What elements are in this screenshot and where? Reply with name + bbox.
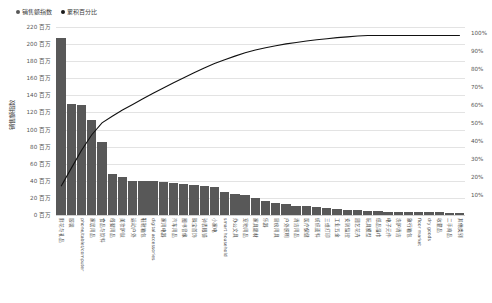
x-axis-category-label: 食品与饮料 <box>100 218 105 243</box>
secondary-y-axis-tick: 90% <box>471 48 483 54</box>
x-axis-category[interactable]: 纸品湿巾 <box>373 217 383 301</box>
x-axis-category[interactable]: dry goods <box>424 217 434 301</box>
y-axis-tick: 100 百万 <box>27 126 51 134</box>
x-axis-category-label: 家具建材 <box>253 218 258 238</box>
x-axis-category-label: 鞋靴箱包 <box>141 218 146 238</box>
x-axis-category[interactable]: 厨房用具 <box>271 217 281 301</box>
y-axis-tick-labels: 0 百万20 百万40 百万60 百万80 百万100 百万120 百万140 … <box>0 0 54 216</box>
secondary-y-axis-tick-labels: 10%20%30%40%50%60%70%80%90%100% <box>468 0 492 216</box>
x-axis-category[interactable]: 汽车用品 <box>168 217 178 301</box>
x-axis-category[interactable]: phone/tablet/computer <box>76 217 86 301</box>
x-axis-category[interactable]: 珠宝首饰 <box>189 217 199 301</box>
x-axis-category-label: 旅行箱包 <box>406 218 411 238</box>
x-axis-category-label: 小家电 <box>212 218 217 233</box>
x-axis-category[interactable]: 办公文具 <box>230 217 240 301</box>
x-axis-category[interactable]: 家具建材 <box>250 217 260 301</box>
x-axis-category-label: 家用电器 <box>161 218 166 238</box>
x-axis-category[interactable]: 钟表眼镜 <box>199 217 209 301</box>
x-axis-category[interactable]: 服装 <box>66 217 76 301</box>
x-axis-category-label: 服装 <box>69 218 74 228</box>
secondary-y-axis-tick: 30% <box>471 156 483 162</box>
x-axis-category-label: 三维打印 <box>325 218 330 238</box>
secondary-y-axis-tick: 40% <box>471 138 483 144</box>
x-axis-category-label: 玩具模型 <box>365 218 370 238</box>
secondary-y-axis-tick: 100% <box>471 30 487 36</box>
y-axis-tick: 160 百万 <box>27 74 51 82</box>
x-axis-category-label: 钟表眼镜 <box>202 218 207 238</box>
x-axis-category-label: 清洁用品 <box>294 218 299 238</box>
x-axis-category[interactable]: 图书音像 <box>179 217 189 301</box>
x-axis-category-label: 纺织面料 <box>314 218 319 238</box>
y-axis-tick: 60 百万 <box>30 160 51 168</box>
x-axis-category[interactable]: 电子元件 <box>383 217 393 301</box>
x-axis-category[interactable]: 纺织面料 <box>311 217 321 301</box>
x-axis-category[interactable]: 其他类别 <box>455 217 465 301</box>
x-axis-category[interactable]: 鲜花与礼品 <box>56 217 66 301</box>
x-axis-category[interactable]: smart household <box>220 217 230 301</box>
x-axis-category-label: floor market <box>416 218 421 246</box>
x-axis-category-label: 图书音像 <box>181 218 186 238</box>
x-axis-category[interactable]: 旅行箱包 <box>403 217 413 301</box>
x-axis-category-label: dry goods <box>427 218 432 241</box>
x-axis-category-label: 珠宝首饰 <box>192 218 197 238</box>
secondary-y-axis-tick: 20% <box>471 174 483 180</box>
y-axis-tick: 80 百万 <box>30 143 51 151</box>
x-axis-category-label: 乐器 <box>263 218 268 228</box>
x-axis-category-label: digital accessories <box>151 218 156 260</box>
x-axis-category[interactable]: 小家电 <box>209 217 219 301</box>
x-axis-category[interactable]: 家居用品 <box>87 217 97 301</box>
x-axis-category[interactable]: 运动户外 <box>128 217 138 301</box>
x-axis-category[interactable]: 工业五金 <box>332 217 342 301</box>
x-axis-category[interactable]: 收藏品 <box>434 217 444 301</box>
legend-dot-cumulative-percent <box>61 10 65 14</box>
x-axis-category-label: 电子元件 <box>386 218 391 238</box>
legend-label-cumulative-percent: 累积百分比 <box>67 9 97 15</box>
x-axis-category[interactable]: digital accessories <box>148 217 158 301</box>
x-axis-category[interactable]: floor market <box>414 217 424 301</box>
y-axis-tick: 140 百万 <box>27 91 51 99</box>
x-axis-category[interactable]: 医疗保健 <box>301 217 311 301</box>
x-axis-category-label: 纸品湿巾 <box>376 218 381 238</box>
x-axis-category-label: smart household <box>222 218 227 257</box>
x-axis-category-labels: 鲜花与礼品服装phone/tablet/computer家居用品食品与饮料母婴用… <box>56 217 465 301</box>
x-axis-category-label: 母婴用品 <box>110 218 115 238</box>
secondary-y-axis-tick: 10% <box>471 192 483 198</box>
secondary-y-axis-tick: 50% <box>471 120 483 126</box>
x-axis-category-label: 户外照明 <box>284 218 289 238</box>
x-axis-category[interactable]: 三维打印 <box>322 217 332 301</box>
x-axis-category[interactable]: 母婴用品 <box>107 217 117 301</box>
x-axis-category-label: 汽车用品 <box>171 218 176 238</box>
x-axis-category-label: 园艺花卉 <box>355 218 360 238</box>
secondary-y-axis-tick: 70% <box>471 84 483 90</box>
x-axis-category-label: 医疗保健 <box>304 218 309 238</box>
x-axis-category-label: 办公文具 <box>233 218 238 238</box>
x-axis-category[interactable]: 清洁用品 <box>291 217 301 301</box>
x-axis-category[interactable]: 食品与饮料 <box>97 217 107 301</box>
plot-area <box>56 27 465 215</box>
x-axis-category[interactable]: 园艺花卉 <box>352 217 362 301</box>
y-axis-tick: 120 百万 <box>27 108 51 116</box>
secondary-y-axis-tick: 60% <box>471 102 483 108</box>
secondary-y-axis-tick: 80% <box>471 66 483 72</box>
x-axis-category-label: 家居用品 <box>89 218 94 238</box>
x-axis-category[interactable]: 户外照明 <box>281 217 291 301</box>
x-axis-category-label: 鲜花与礼品 <box>59 218 64 243</box>
x-axis-category[interactable]: 美妆护肤 <box>117 217 127 301</box>
x-axis-category[interactable]: 家用电器 <box>158 217 168 301</box>
x-axis-category[interactable]: 鞋靴箱包 <box>138 217 148 301</box>
x-axis-category[interactable]: 安防监控 <box>342 217 352 301</box>
x-axis-category[interactable]: 洗护清洁 <box>393 217 403 301</box>
x-axis-category-label: 其他类别 <box>457 218 462 238</box>
x-axis-category-label: 二手商品 <box>447 218 452 238</box>
y-axis-tick: 20 百万 <box>30 194 51 202</box>
x-axis-category[interactable]: 二手商品 <box>444 217 454 301</box>
x-axis-category[interactable]: 玩具模型 <box>363 217 373 301</box>
x-axis-category-label: 运动户外 <box>130 218 135 238</box>
x-axis-category-label: 洗护清洁 <box>396 218 401 238</box>
x-axis-category[interactable]: 乐器 <box>260 217 270 301</box>
x-axis-category[interactable]: 宠物用品 <box>240 217 250 301</box>
legend-item-cumulative-percent[interactable]: 累积百分比 <box>61 9 97 15</box>
cumulative-line-series <box>56 27 465 215</box>
y-axis-tick: 180 百万 <box>27 57 51 65</box>
